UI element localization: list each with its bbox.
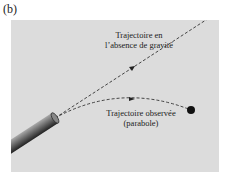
observed-label: Trajectoire observée (parabole): [81, 109, 201, 128]
diagram-panel: Trajectoire en l’absence de gravité Traj…: [11, 20, 219, 172]
label-line: l’absence de gravité: [83, 41, 195, 51]
cannon-icon: [11, 112, 60, 158]
no-gravity-label: Trajectoire en l’absence de gravité: [83, 31, 195, 50]
panel-label: (b): [3, 2, 17, 17]
arrow-head-icon: [129, 66, 135, 71]
label-line: (parabole): [81, 119, 201, 129]
